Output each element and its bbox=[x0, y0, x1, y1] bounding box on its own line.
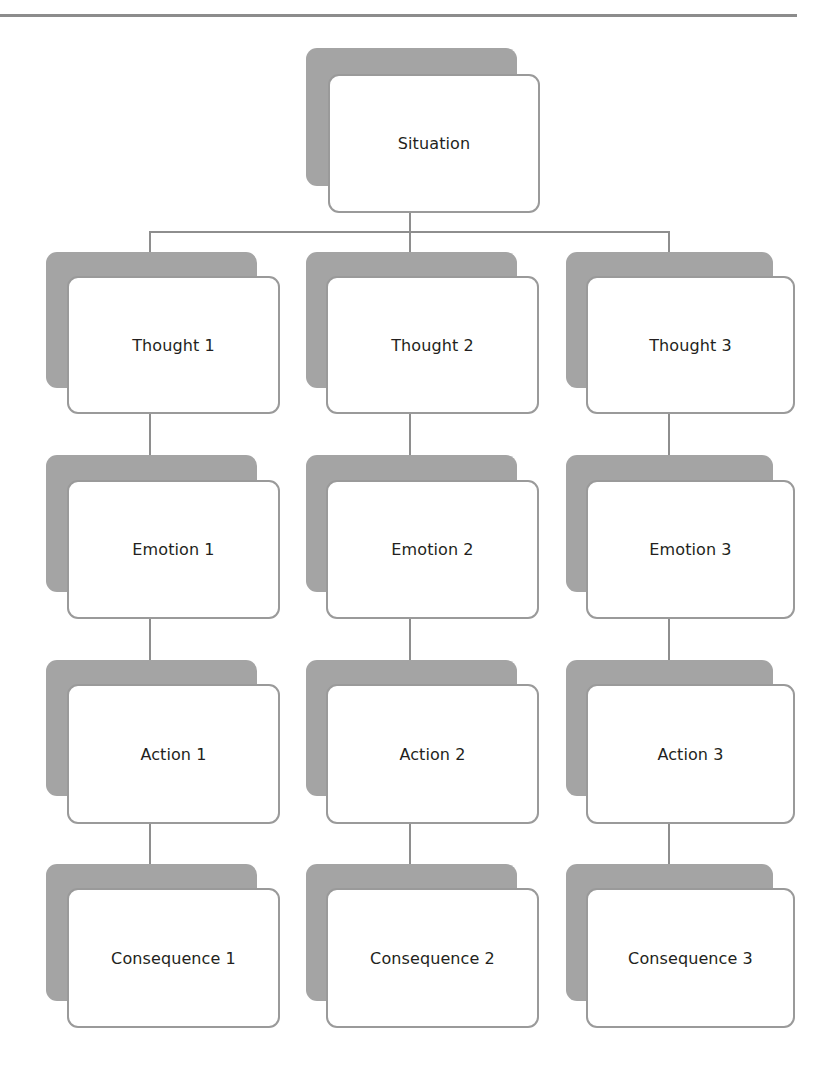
action-1-card: Action 1 bbox=[67, 684, 280, 824]
connector-action2-consequence2 bbox=[409, 823, 411, 865]
emotion-2-label: Emotion 2 bbox=[391, 540, 473, 559]
connector-emotion2-action2 bbox=[409, 618, 411, 661]
emotion-1-card: Emotion 1 bbox=[67, 480, 280, 619]
action-2-label: Action 2 bbox=[399, 745, 465, 764]
action-1-label: Action 1 bbox=[140, 745, 206, 764]
connector-thought2-emotion2 bbox=[409, 413, 411, 456]
action-3-card: Action 3 bbox=[586, 684, 795, 824]
situation-label: Situation bbox=[398, 134, 470, 153]
thought-2-label: Thought 2 bbox=[391, 336, 474, 355]
action-3-label: Action 3 bbox=[657, 745, 723, 764]
thought-1-label: Thought 1 bbox=[132, 336, 215, 355]
connector-emotion3-action3 bbox=[668, 618, 670, 661]
connector-thought1-emotion1 bbox=[149, 413, 151, 456]
emotion-1-label: Emotion 1 bbox=[132, 540, 214, 559]
thought-2-card: Thought 2 bbox=[326, 276, 539, 414]
connector-emotion1-action1 bbox=[149, 618, 151, 661]
consequence-1-card: Consequence 1 bbox=[67, 888, 280, 1028]
connector-situation-down bbox=[409, 212, 411, 233]
consequence-1-label: Consequence 1 bbox=[111, 949, 236, 968]
consequence-2-card: Consequence 2 bbox=[326, 888, 539, 1028]
connector-to-thought-1 bbox=[149, 231, 151, 253]
thought-3-card: Thought 3 bbox=[586, 276, 795, 414]
connector-to-thought-3 bbox=[668, 231, 670, 253]
thought-1-card: Thought 1 bbox=[67, 276, 280, 414]
connector-action3-consequence3 bbox=[668, 823, 670, 865]
action-2-card: Action 2 bbox=[326, 684, 539, 824]
consequence-2-label: Consequence 2 bbox=[370, 949, 495, 968]
consequence-3-label: Consequence 3 bbox=[628, 949, 753, 968]
emotion-3-label: Emotion 3 bbox=[649, 540, 731, 559]
emotion-2-card: Emotion 2 bbox=[326, 480, 539, 619]
situation-card: Situation bbox=[328, 74, 540, 213]
thought-3-label: Thought 3 bbox=[649, 336, 732, 355]
page-header-rule bbox=[0, 14, 797, 17]
connector-thought3-emotion3 bbox=[668, 413, 670, 456]
connector-action1-consequence1 bbox=[149, 823, 151, 865]
connector-to-thought-2 bbox=[409, 231, 411, 253]
consequence-3-card: Consequence 3 bbox=[586, 888, 795, 1028]
emotion-3-card: Emotion 3 bbox=[586, 480, 795, 619]
